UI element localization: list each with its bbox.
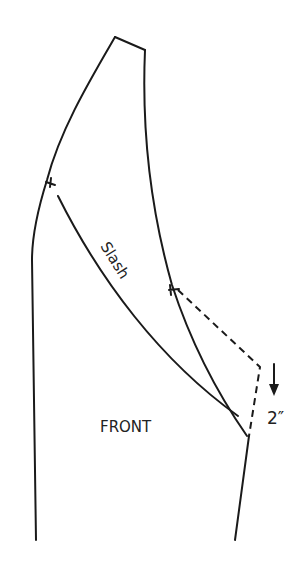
arrow-down-icon: [269, 364, 279, 396]
shoulder-line: [115, 37, 145, 50]
slash-label: Slash: [97, 239, 134, 283]
right-lower-edge: [235, 436, 249, 540]
slash-line: [58, 196, 238, 416]
piece-label: FRONT: [100, 418, 152, 436]
left-outer-edge: [32, 37, 115, 540]
right-neckline-curve: [144, 50, 247, 436]
dashed-rotated-edge: [178, 290, 260, 436]
pattern-diagram: 2″ FRONT Slash: [0, 0, 303, 563]
measurement-label: 2″: [267, 408, 284, 428]
